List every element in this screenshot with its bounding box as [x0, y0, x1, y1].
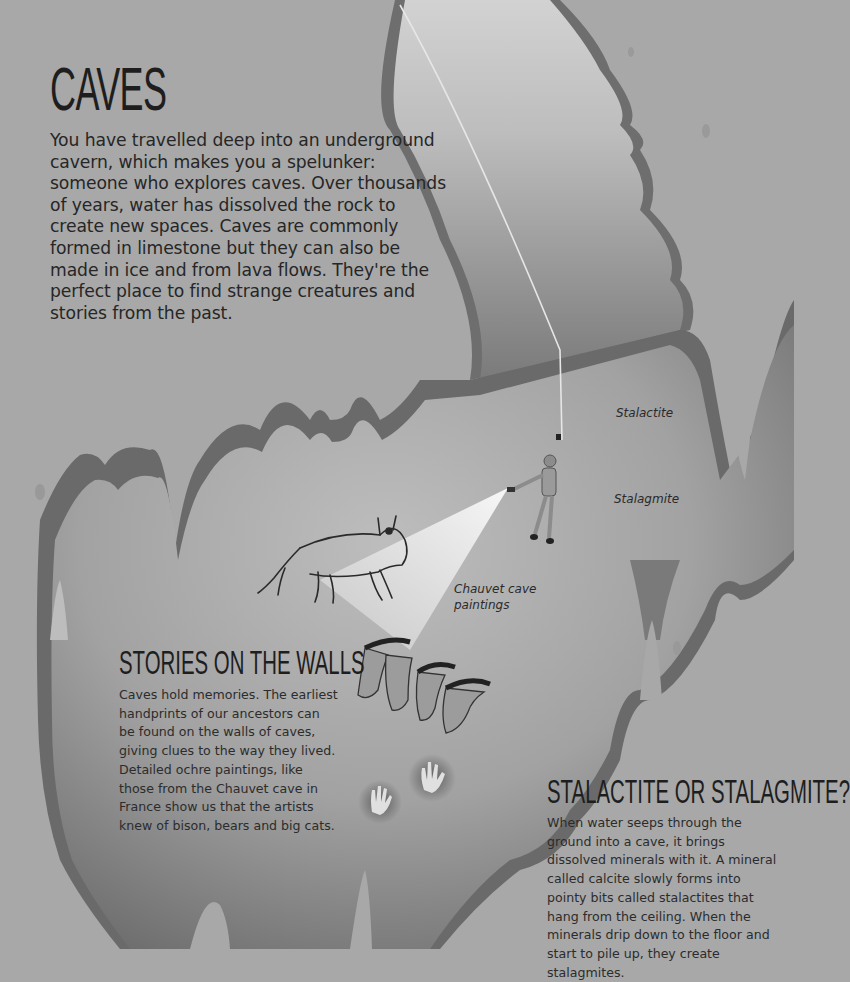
stalactite-stalagmite-body: When water seeps through the ground into… — [547, 814, 783, 982]
label-stalactite: Stalactite — [616, 406, 673, 422]
stories-body: Caves hold memories. The earliest handpr… — [119, 686, 339, 836]
drip — [628, 47, 634, 57]
stories-heading: STORIES ON THE WALLS — [119, 645, 365, 679]
page-title: CAVES — [50, 58, 166, 120]
label-chauvet-line1: Chauvet cave — [454, 582, 536, 598]
intro-paragraph: You have travelled deep into an undergro… — [50, 130, 450, 324]
drip — [702, 124, 710, 138]
drip — [673, 641, 681, 655]
drip — [35, 484, 45, 500]
label-chauvet-line2: paintings — [454, 598, 509, 614]
stalactite-stalagmite-heading: STALACTITE OR STALAGMITE? — [547, 774, 850, 808]
label-stalagmite: Stalagmite — [614, 492, 679, 508]
